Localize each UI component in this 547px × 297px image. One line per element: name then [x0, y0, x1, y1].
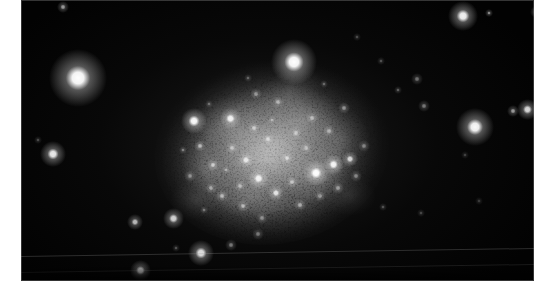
paper-margin-bottom: [0, 281, 547, 297]
photographic-plate: [21, 0, 534, 281]
astro-image-viewport: [0, 0, 547, 297]
plate-bottom-fade: [21, 265, 534, 281]
stellar-grain-overlay: [21, 0, 534, 281]
paper-margin-left: [0, 0, 21, 297]
paper-margin-right: [534, 0, 547, 297]
